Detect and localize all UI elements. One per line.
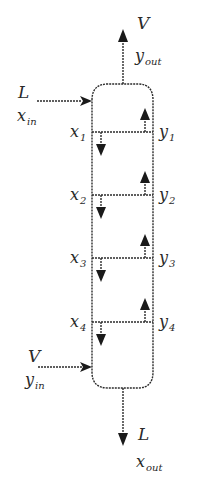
vapor-out-flow-label: V xyxy=(137,15,149,32)
stage-1 xyxy=(92,108,153,156)
vapor-in-arrow-icon xyxy=(38,362,92,372)
x-var: x xyxy=(70,312,79,331)
x-var: x xyxy=(70,122,79,141)
y-var: y xyxy=(159,312,168,331)
liquid-out-comp-label: xout xyxy=(136,454,163,470)
vapor-in-comp-label: yin xyxy=(25,372,45,388)
liquid-out-sub: out xyxy=(146,462,162,473)
vapor-in-sub: in xyxy=(35,380,45,391)
x-sub: 2 xyxy=(80,195,86,206)
vapor-out-comp-label: yout xyxy=(135,48,162,64)
y-sub: 3 xyxy=(169,258,175,269)
column-diagram xyxy=(0,0,208,479)
x-sub: 4 xyxy=(80,322,86,333)
vapor-up-arrow-icon xyxy=(140,171,150,183)
liquid-down-arrow-icon xyxy=(96,207,106,219)
vapor-out-sub: out xyxy=(145,56,161,67)
liquid-out-comp: x xyxy=(136,452,145,471)
x-sub: 3 xyxy=(80,258,86,269)
liquid-in-comp-label: xin xyxy=(17,108,37,124)
liquid-down-arrow-icon xyxy=(96,334,106,346)
liquid-in-sub: in xyxy=(27,116,37,127)
stage-1-x-label: x1 xyxy=(70,124,86,140)
liquid-down-arrow-icon xyxy=(96,144,106,156)
x-var: x xyxy=(70,185,79,204)
x-sub: 1 xyxy=(80,132,86,143)
stage-3-y-label: y3 xyxy=(159,250,175,266)
y-sub: 2 xyxy=(169,195,175,206)
liquid-down-arrow-icon xyxy=(96,270,106,282)
stage-3-x-label: x3 xyxy=(70,250,86,266)
x-var: x xyxy=(70,248,79,267)
vapor-up-arrow-icon xyxy=(140,298,150,310)
y-var: y xyxy=(159,248,168,267)
vapor-up-arrow-icon xyxy=(140,108,150,120)
y-var: y xyxy=(159,185,168,204)
liquid-in-flow-label: L xyxy=(18,84,29,101)
stage-4-x-label: x4 xyxy=(70,314,86,330)
liquid-out-flow-label: L xyxy=(138,426,149,443)
y-sub: 1 xyxy=(169,132,175,143)
y-sub: 4 xyxy=(169,322,175,333)
stage-2 xyxy=(92,171,153,219)
stage-3 xyxy=(92,234,153,282)
stage-4-y-label: y4 xyxy=(159,314,175,330)
liquid-in-arrow-icon xyxy=(37,96,92,106)
vapor-up-arrow-icon xyxy=(140,234,150,246)
liquid-out-arrow-icon xyxy=(118,388,128,446)
vapor-out-comp: y xyxy=(135,46,144,65)
vapor-out-arrow-icon xyxy=(118,29,128,84)
stage-2-x-label: x2 xyxy=(70,187,86,203)
vapor-in-flow-label: V xyxy=(28,348,40,365)
stage-1-y-label: y1 xyxy=(159,124,175,140)
vapor-in-comp: y xyxy=(25,370,34,389)
y-var: y xyxy=(159,122,168,141)
liquid-in-comp: x xyxy=(17,106,26,125)
stage-4 xyxy=(92,298,153,346)
stage-2-y-label: y2 xyxy=(159,187,175,203)
